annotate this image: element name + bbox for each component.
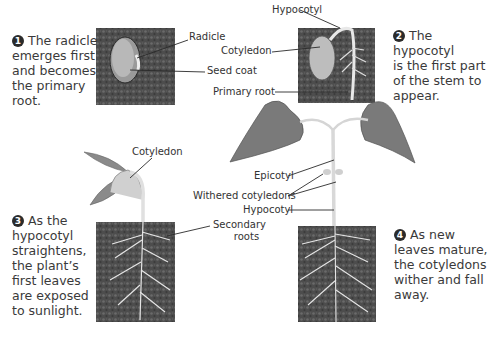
label-seed-coat: Seed coat (207, 65, 257, 77)
caption-stage-2: 2The hypocotyl is the first part of the … (393, 28, 493, 103)
label-cotyledon-stage2: Cotyledon (221, 45, 272, 57)
true-leaf-right (361, 102, 415, 163)
step-number-badge: 4 (394, 229, 406, 241)
withered-cotyledon-left (323, 169, 331, 175)
true-leaf-left (230, 101, 303, 162)
first-leaf-1 (84, 152, 128, 172)
stage3-plant-illustration (84, 152, 175, 322)
cotyledon-shape (309, 36, 335, 80)
label-primary-root: Primary root (213, 86, 275, 98)
germination-diagram: 1The radicle emerges first and becomes t… (0, 0, 493, 343)
label-epicotyl: Epicotyl (254, 170, 294, 182)
withered-cotyledon-right (335, 169, 343, 175)
label-radicle: Radicle (189, 31, 225, 43)
label-hypocotyl-stage4: Hypocotyl (243, 204, 293, 216)
label-cotyledon-stage3: Cotyledon (132, 146, 183, 158)
label-hypocotyl-stage2: Hypocotyl (272, 4, 322, 16)
caption-stage-4: 4As new leaves mature, the cotyledons wi… (394, 227, 488, 302)
step-number-badge: 2 (393, 30, 405, 42)
caption-stage-3: 3As the hypocotyl straightens, the plant… (12, 213, 89, 318)
stem-4 (333, 130, 334, 226)
label-withered-cotyledons: Withered cotyledons (193, 190, 296, 202)
step-number-badge: 1 (12, 35, 24, 47)
step-number-badge: 3 (12, 215, 24, 227)
stage1-seed-illustration (96, 28, 175, 105)
caption-stage-1: 1The radicle emerges first and becomes t… (12, 33, 97, 108)
label-secondary-roots: Secondary roots (213, 219, 266, 243)
